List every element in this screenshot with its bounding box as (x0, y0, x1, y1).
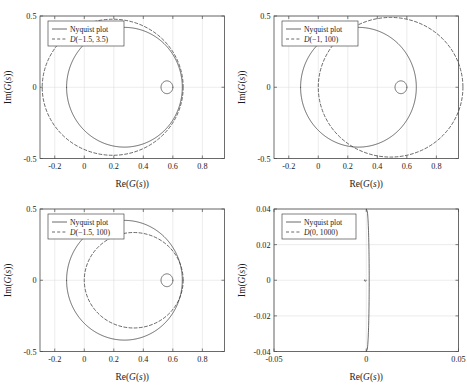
svg-text:0: 0 (266, 83, 270, 92)
svg-text:0.2: 0.2 (109, 355, 119, 364)
svg-text:0.8: 0.8 (197, 162, 207, 171)
svg-text:Im(G(s)): Im(G(s)) (3, 263, 14, 296)
svg-text:0: 0 (32, 83, 36, 92)
panel-3-legend: Nyquist plotD(−1.5, 100) (48, 214, 124, 239)
svg-text:-0.2: -0.2 (282, 162, 295, 171)
nyquist-panel-2: -0.200.20.40.60.8-0.500.5Re(G(s))Im(G(s)… (234, 0, 467, 193)
svg-text:-0.02: -0.02 (253, 311, 270, 320)
svg-text:0.6: 0.6 (168, 355, 178, 364)
svg-text:Nyquist plot: Nyquist plot (70, 218, 109, 227)
nyquist-panel-3: -0.200.20.40.60.8-0.500.5Re(G(s))Im(G(s)… (0, 193, 234, 385)
svg-text:0.6: 0.6 (168, 162, 178, 171)
svg-text:Re(G(s)): Re(G(s)) (349, 179, 382, 190)
svg-text:Nyquist plot: Nyquist plot (304, 218, 343, 227)
svg-text:Re(G(s)): Re(G(s)) (116, 372, 149, 383)
svg-text:0.2: 0.2 (342, 162, 352, 171)
svg-text:D(−1.5, 100): D(−1.5, 100) (69, 228, 110, 237)
svg-text:Re(G(s)): Re(G(s)) (349, 372, 382, 383)
panel-4-svg: -0.0500.05-0.04-0.0200.020.04Re(G(s))Im(… (234, 193, 467, 385)
svg-text:Im(G(s)): Im(G(s)) (236, 263, 247, 296)
svg-text:0.02: 0.02 (256, 240, 270, 249)
svg-text:-0.5: -0.5 (24, 347, 37, 356)
svg-text:0.5: 0.5 (260, 12, 270, 21)
svg-text:D(0, 1000): D(0, 1000) (303, 228, 338, 237)
svg-text:0: 0 (316, 162, 320, 171)
panel-4-legend: Nyquist plotD(0, 1000) (282, 214, 356, 239)
svg-text:Im(G(s)): Im(G(s)) (236, 71, 247, 104)
svg-text:0: 0 (364, 355, 368, 364)
svg-text:-0.2: -0.2 (48, 162, 61, 171)
svg-text:0.8: 0.8 (431, 162, 441, 171)
svg-text:0: 0 (32, 276, 36, 285)
svg-text:0.4: 0.4 (138, 162, 148, 171)
svg-text:Nyquist plot: Nyquist plot (70, 25, 109, 34)
figure-panel-grid: -0.200.20.40.60.8-0.500.5Re(G(s))Im(G(s)… (0, 0, 467, 385)
svg-text:0.04: 0.04 (256, 205, 270, 214)
svg-text:0: 0 (82, 355, 86, 364)
svg-text:D(−1, 100): D(−1, 100) (303, 35, 339, 44)
panel-3-svg: -0.200.20.40.60.8-0.500.5Re(G(s))Im(G(s)… (0, 193, 234, 385)
svg-text:-0.2: -0.2 (48, 355, 61, 364)
svg-text:Im(G(s)): Im(G(s)) (3, 71, 14, 104)
svg-text:0.4: 0.4 (372, 162, 382, 171)
svg-text:0.2: 0.2 (109, 162, 119, 171)
svg-text:0.4: 0.4 (138, 355, 148, 364)
nyquist-panel-1: -0.200.20.40.60.8-0.500.5Re(G(s))Im(G(s)… (0, 0, 234, 193)
svg-text:0.6: 0.6 (401, 162, 411, 171)
panel-1-legend: Nyquist plotD(−1.5, 3.5) (48, 21, 124, 46)
svg-text:0: 0 (266, 276, 270, 285)
svg-text:Nyquist plot: Nyquist plot (304, 25, 343, 34)
svg-text:D(−1.5, 3.5): D(−1.5, 3.5) (69, 35, 109, 44)
panel-2-legend: Nyquist plotD(−1, 100) (282, 21, 358, 46)
svg-text:-0.5: -0.5 (257, 155, 270, 164)
svg-text:0.8: 0.8 (197, 355, 207, 364)
nyquist-panel-4: -0.0500.05-0.04-0.0200.020.04Re(G(s))Im(… (234, 193, 467, 385)
svg-text:0: 0 (82, 162, 86, 171)
svg-text:0.05: 0.05 (451, 355, 465, 364)
svg-text:Re(G(s)): Re(G(s)) (116, 179, 149, 190)
svg-text:-0.5: -0.5 (24, 155, 37, 164)
svg-text:-0.04: -0.04 (253, 347, 270, 356)
svg-text:0.5: 0.5 (26, 12, 36, 21)
panel-1-svg: -0.200.20.40.60.8-0.500.5Re(G(s))Im(G(s)… (0, 0, 234, 193)
panel-2-svg: -0.200.20.40.60.8-0.500.5Re(G(s))Im(G(s)… (234, 0, 467, 193)
svg-text:0.5: 0.5 (26, 205, 36, 214)
